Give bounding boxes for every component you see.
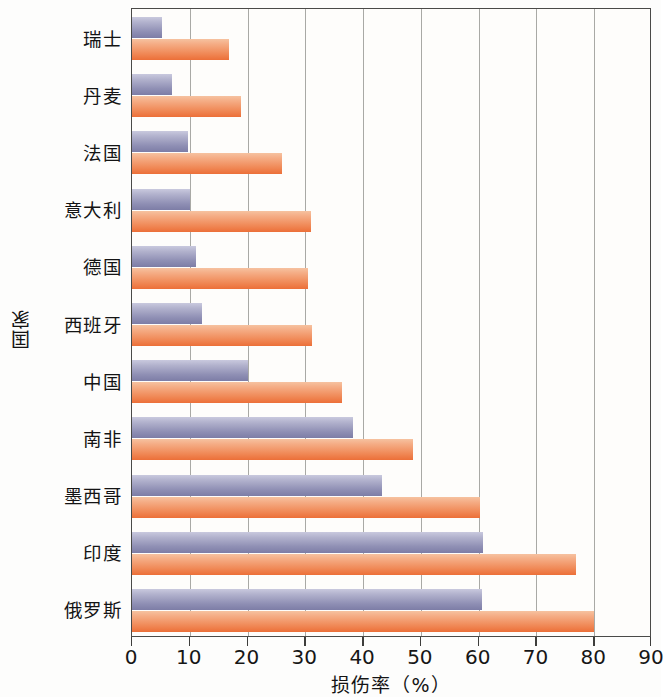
y-axis-label-瑞士: 瑞士 (83, 25, 122, 51)
y-axis-label-德国: 德国 (83, 253, 122, 279)
gridline (594, 9, 595, 636)
bar-series-1-瑞士 (132, 17, 162, 38)
x-axis-title: 损伤率（%） (131, 670, 651, 697)
x-tick-label-20: 20 (234, 645, 259, 669)
bar-series-2-丹麦 (132, 96, 241, 117)
bar-series-2-意大利 (132, 211, 311, 232)
y-axis-label-中国: 中国 (83, 368, 122, 394)
bar-series-2-中国 (132, 382, 342, 403)
y-axis-label-印度: 印度 (83, 539, 122, 565)
y-axis-label-法国: 法国 (83, 139, 122, 165)
y-axis-title: 国家 (2, 274, 38, 384)
y-axis-label-俄罗斯: 俄罗斯 (64, 596, 123, 622)
x-tick-label-50: 50 (407, 645, 432, 669)
bar-series-2-南非 (132, 439, 413, 460)
x-tick-label-70: 70 (523, 645, 548, 669)
bar-series-2-法国 (132, 153, 282, 174)
x-tick-label-0: 0 (125, 645, 138, 669)
plot-area (131, 8, 651, 637)
x-axis-tick-labels: 0102030405060708090 (131, 645, 651, 673)
bar-series-1-中国 (132, 360, 248, 381)
y-axis-category-labels: 瑞士丹麦法国意大利德国西班牙中国南非墨西哥印度俄罗斯 (40, 8, 126, 637)
gridline (536, 9, 537, 636)
x-tick-label-30: 30 (292, 645, 317, 669)
y-axis-label-丹麦: 丹麦 (83, 82, 122, 108)
x-tick-label-40: 40 (349, 645, 374, 669)
x-tick-label-60: 60 (465, 645, 490, 669)
bar-series-2-俄罗斯 (132, 611, 594, 632)
bar-series-1-意大利 (132, 189, 190, 210)
bar-series-1-丹麦 (132, 74, 172, 95)
bar-series-2-墨西哥 (132, 497, 480, 518)
bar-series-1-德国 (132, 246, 196, 267)
bar-series-1-印度 (132, 532, 483, 553)
y-axis-label-意大利: 意大利 (64, 196, 123, 222)
bar-series-2-西班牙 (132, 325, 312, 346)
bar-series-2-德国 (132, 268, 308, 289)
bar-series-2-瑞士 (132, 39, 229, 60)
bar-series-1-南非 (132, 417, 353, 438)
bar-series-1-法国 (132, 131, 188, 152)
bar-series-1-西班牙 (132, 303, 202, 324)
x-tick-label-80: 80 (580, 645, 605, 669)
y-axis-label-墨西哥: 墨西哥 (64, 482, 123, 508)
bar-series-2-印度 (132, 554, 576, 575)
x-tick-label-90: 90 (638, 645, 663, 669)
y-axis-label-南非: 南非 (83, 425, 122, 451)
bar-series-1-墨西哥 (132, 475, 382, 496)
y-axis-label-西班牙: 西班牙 (64, 311, 123, 337)
y-axis-title-text: 国家 (7, 309, 34, 349)
x-tick-label-10: 10 (176, 645, 201, 669)
bar-series-1-俄罗斯 (132, 589, 482, 610)
